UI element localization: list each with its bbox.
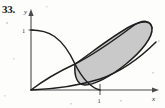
x-axis-label: x <box>151 95 156 103</box>
shaded-leaf-region <box>75 22 152 85</box>
y-axis <box>28 9 33 90</box>
figure-container: 33. y x 1 <box>0 0 165 108</box>
x-axis-arrowhead <box>152 87 159 92</box>
y-tick-1-label: 1 <box>22 27 25 34</box>
x-tick-1: 1 <box>98 84 101 104</box>
y-axis-label: y <box>23 8 28 16</box>
x-tick-1-label: 1 <box>98 97 101 104</box>
y-axis-arrowhead <box>28 9 33 16</box>
plot-area: y x 1 1 <box>0 0 165 108</box>
